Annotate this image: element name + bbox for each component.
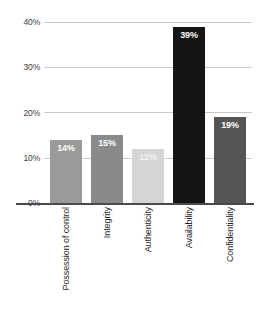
- y-tick-label-10: 10%: [6, 153, 40, 163]
- bar-availability[interactable]: 39%: [173, 27, 205, 204]
- bar-slot-possession-of-control: 14%: [50, 22, 82, 203]
- x-tick-label-confidentiality: Confidentiality: [225, 207, 235, 262]
- cat-slot-possession-of-control: Possession of control: [50, 207, 82, 315]
- x-axis-line: [16, 203, 254, 205]
- bar-value-authenticity: 12%: [132, 152, 164, 162]
- y-tick-label-20: 20%: [6, 108, 40, 118]
- y-tick-label-40: 40%: [6, 17, 40, 27]
- bar-value-availability: 39%: [173, 30, 205, 40]
- cat-slot-confidentiality: Confidentiality: [214, 207, 246, 315]
- bar-possession-of-control[interactable]: 14%: [50, 140, 82, 203]
- x-tick-label-authenticity: Authenticity: [143, 207, 153, 252]
- bar-value-possession-of-control: 14%: [50, 143, 82, 153]
- x-tick-label-integrity: Integrity: [102, 207, 112, 238]
- cat-slot-integrity: Integrity: [91, 207, 123, 315]
- bar-slot-integrity: 15%: [91, 22, 123, 203]
- y-axis: 40% 30% 20% 10% 0%: [0, 22, 40, 203]
- bar-slot-availability: 39%: [173, 22, 205, 203]
- cat-slot-authenticity: Authenticity: [132, 207, 164, 315]
- x-axis-category-labels: Possession of control Integrity Authenti…: [44, 207, 252, 315]
- bar-integrity[interactable]: 15%: [91, 135, 123, 203]
- cat-slot-availability: Availability: [173, 207, 205, 315]
- y-tick-label-30: 30%: [6, 62, 40, 72]
- bar-value-confidentiality: 19%: [214, 120, 246, 130]
- bar-value-integrity: 15%: [91, 138, 123, 148]
- bars-layer: 14% 15% 12% 39% 19%: [44, 22, 252, 203]
- bar-slot-authenticity: 12%: [132, 22, 164, 203]
- bar-confidentiality[interactable]: 19%: [214, 117, 246, 203]
- bar-authenticity[interactable]: 12%: [132, 149, 164, 203]
- bar-slot-confidentiality: 19%: [214, 22, 246, 203]
- x-tick-label-possession-of-control: Possession of control: [61, 207, 71, 290]
- bar-chart: 40% 30% 20% 10% 0% 14% 15% 12%: [0, 0, 262, 318]
- x-tick-label-availability: Availability: [184, 207, 194, 248]
